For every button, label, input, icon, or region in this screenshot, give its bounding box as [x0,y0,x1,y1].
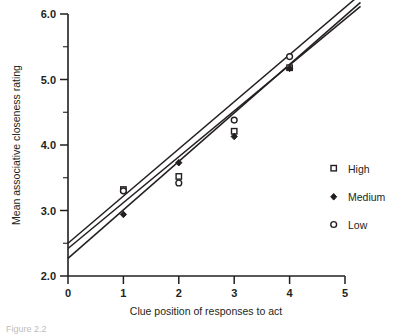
x-tick-label-0: 0 [65,287,71,299]
y-tick-label-5.0: 5.0 [41,74,56,86]
y-tick-label-6.0: 6.0 [41,8,56,20]
data-point-low-x4 [287,54,293,60]
y-tick-label-3.0: 3.0 [41,205,56,217]
x-axis-title: Clue position of responses to act [130,305,282,317]
legend-item-high[interactable]: High [331,163,370,175]
legend-label-high: High [348,163,370,175]
data-markers [120,54,292,218]
legend-item-low[interactable]: Low [331,219,368,231]
open-circle-icon [331,222,337,228]
x-tick-label-2: 2 [176,287,182,299]
x-tick-label-5: 5 [342,287,348,299]
x-tick-label-3: 3 [231,287,237,299]
scatter-plot: 2.0 3.0 4.0 5.0 6.0 0 1 2 3 4 5 Clue pos… [0,0,407,335]
y-axis-title: Mean associative closeness rating [10,65,22,225]
open-square-icon [331,166,336,171]
legend-label-medium: Medium [348,191,386,203]
regression-line-high [68,6,361,248]
regression-lines [68,0,361,258]
data-point-low-x1 [121,188,127,194]
regression-line-medium [68,2,361,258]
x-tick-label-1: 1 [120,287,126,299]
regression-line-low [68,0,361,243]
legend-item-medium[interactable]: Medium [331,191,386,203]
legend-label-low: Low [348,219,368,231]
data-point-low-x2 [176,180,182,186]
filled-diamond-icon [331,194,337,201]
data-point-high-x2 [176,174,181,179]
y-tick-label-2.0: 2.0 [41,270,56,282]
legend: High Medium Low [331,163,386,231]
figure-caption: Figure 2.2 [6,324,47,334]
data-point-low-x3 [231,117,237,123]
figure-container: 2.0 3.0 4.0 5.0 6.0 0 1 2 3 4 5 Clue pos… [0,0,407,335]
y-tick-label-4.0: 4.0 [41,139,56,151]
x-tick-label-4: 4 [287,287,294,299]
